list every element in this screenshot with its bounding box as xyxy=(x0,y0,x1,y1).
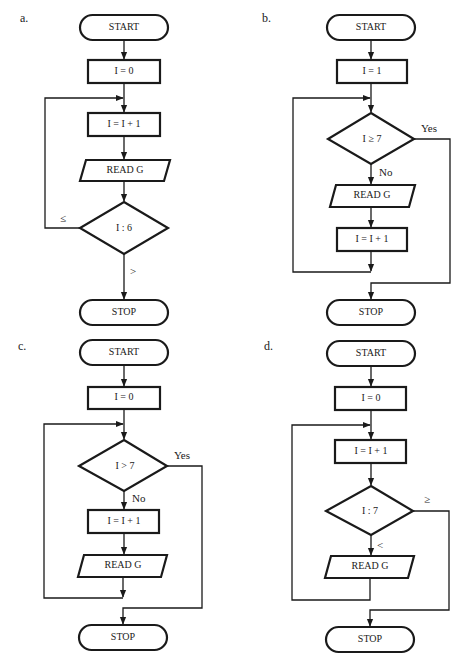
increment-text-a: I = I + 1 xyxy=(108,118,141,129)
flowchart-figure: a. START I = 0 I = I + 1 READ G I : 6 ≤ … xyxy=(0,0,459,661)
increment-text-b: I = I + 1 xyxy=(356,233,389,244)
stop-text-a: STOP xyxy=(112,306,137,317)
start-text-d: START xyxy=(356,347,386,358)
increment-text-d: I = I + 1 xyxy=(355,445,388,456)
decision-text-d: I : 7 xyxy=(362,505,378,516)
panel-label-b: b. xyxy=(262,11,271,25)
continue-branch-label-d: < xyxy=(377,539,383,551)
start-text-b: START xyxy=(356,21,386,32)
read-text-b: READ G xyxy=(354,189,391,200)
read-text-d: READ G xyxy=(352,560,389,571)
decision-text-a: I : 6 xyxy=(116,222,132,233)
init-text-b: I = 1 xyxy=(363,65,382,76)
loop-branch-label-a: ≤ xyxy=(60,212,66,224)
yes-exit-arrow-b xyxy=(371,139,450,299)
start-text-c: START xyxy=(109,346,139,357)
yes-exit-arrow-c xyxy=(123,466,202,624)
flowchart-d: d. START I = 0 I = I + 1 I : 7 ≥ < READ … xyxy=(264,339,449,652)
flowchart-a: a. START I = 0 I = I + 1 READ G I : 6 ≤ … xyxy=(20,11,170,325)
panel-label-c: c. xyxy=(18,339,26,353)
stop-text-d: STOP xyxy=(358,633,383,644)
decision-text-c: I > 7 xyxy=(116,460,135,471)
start-text-a: START xyxy=(109,21,139,32)
read-text-a: READ G xyxy=(107,164,144,175)
exit-branch-label-a: > xyxy=(130,265,136,277)
decision-text-b: I ≥ 7 xyxy=(363,133,382,144)
exit-branch-label-d: ≥ xyxy=(424,493,430,505)
continue-branch-label-c: No xyxy=(132,492,146,504)
panel-label-d: d. xyxy=(264,339,273,353)
stop-text-c: STOP xyxy=(111,631,136,642)
init-text-c: I = 0 xyxy=(115,391,134,402)
exit-branch-label-b: Yes xyxy=(421,122,437,134)
init-text-a: I = 0 xyxy=(115,65,134,76)
increment-text-c: I = I + 1 xyxy=(108,515,141,526)
panel-label-a: a. xyxy=(20,11,28,25)
flowchart-c: c. START I = 0 I > 7 Yes No I = I + 1 RE… xyxy=(18,339,202,650)
exit-branch-label-c: Yes xyxy=(174,449,190,461)
stop-text-b: STOP xyxy=(359,306,384,317)
read-text-c: READ G xyxy=(105,559,142,570)
init-text-d: I = 0 xyxy=(362,392,381,403)
flowchart-b: b. START I = 1 I ≥ 7 Yes No READ G I = I… xyxy=(262,11,450,325)
continue-branch-label-b: No xyxy=(379,166,393,178)
